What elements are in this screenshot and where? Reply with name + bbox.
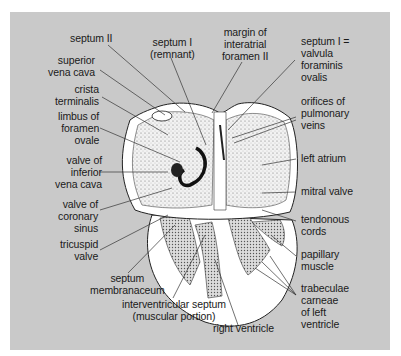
label-trabeculae-carneae: trabeculae carneae of left ventricle [301, 282, 349, 330]
label-right-ventricle: right ventricle [213, 322, 274, 334]
label-mitral-valve: mitral valve [301, 185, 353, 197]
label-septum-membranaceum: septum membranaceum [90, 272, 165, 296]
label-valve-inferior-vena-cava: valve of inferior vena cava [55, 154, 102, 190]
label-limbus-foramen-ovale: limbus of foramen ovale [58, 110, 99, 146]
label-interventricular-septum: interventricular septum (muscular portio… [122, 298, 226, 322]
label-tendonous-cords: tendonous cords [301, 213, 349, 237]
label-margin-interatrial-foramen: margin of interatrial foramen II [222, 26, 268, 62]
label-septum-i-valvula: septum I = valvula foraminis ovalis [301, 35, 349, 83]
label-orifices-pulmonary-veins: orifices of pulmonary veins [301, 95, 349, 131]
label-tricuspid-valve: tricuspid valve [60, 238, 98, 262]
label-superior-vena-cava: superior vena cava [48, 54, 95, 78]
label-septum-i-remnant: septum I (remnant) [150, 36, 195, 60]
label-septum-ii: septum II [70, 32, 112, 44]
label-papillary-muscle: papillary muscle [301, 248, 339, 272]
label-left-atrium: left atrium [301, 152, 346, 164]
label-valve-coronary-sinus: valve of coronary sinus [58, 198, 98, 234]
label-crista-terminalis: crista terminalis [55, 83, 99, 107]
